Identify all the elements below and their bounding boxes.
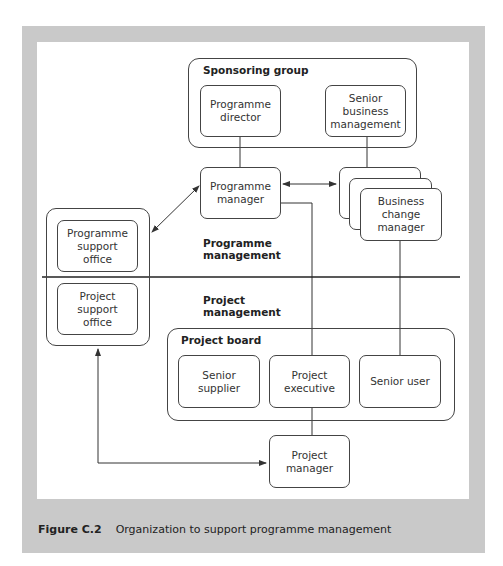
senior-business-management-node: Senior business management [325,85,406,137]
senior-supplier-node: Senior supplier [178,355,260,408]
programme-support-office-node: Programme support office [57,220,138,272]
programme-director-node: Programme director [200,85,281,137]
project-manager-node: Project manager [269,435,350,488]
project-board-label: Project board [181,334,261,346]
figure-number: Figure C.2 [38,523,102,536]
programme-manager-node: Programme manager [200,167,281,219]
project-management-label: Project management [203,294,283,318]
sponsoring-group-label: Sponsoring group [203,64,309,76]
project-executive-node: Project executive [269,355,350,408]
project-support-office-node: Project support office [57,283,138,335]
figure-title: Organization to support programme manage… [116,523,392,536]
senior-user-node: Senior user [359,355,441,408]
business-change-manager-node: Business change manager [360,188,442,241]
programme-management-label: Programme management [203,237,283,261]
figure-caption: Figure C.2Organization to support progra… [38,523,391,536]
